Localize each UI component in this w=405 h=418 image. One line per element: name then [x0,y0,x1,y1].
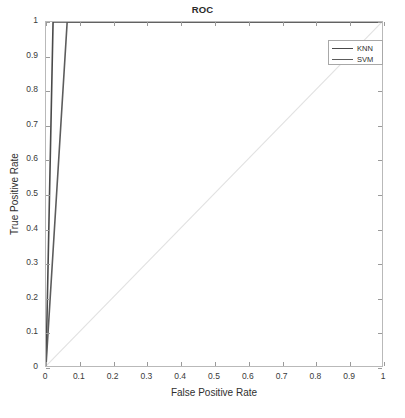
x-tick-mark [215,362,216,366]
x-tick-label: 0.7 [267,371,297,381]
page-title: ROC [0,4,405,15]
legend-label: KNN [357,44,373,53]
y-tick-mark [378,160,382,161]
x-tick-mark [316,362,317,366]
legend: KNNSVM [328,40,383,65]
x-tick-label: 0.6 [233,371,263,381]
y-tick-mark [46,333,50,334]
y-tick-mark [46,160,50,161]
y-tick-mark [378,22,382,23]
x-tick-mark [249,362,250,366]
y-tick-mark [378,264,382,265]
x-tick-mark [80,362,81,366]
plot-canvas [46,22,382,366]
y-tick-mark [46,91,50,92]
y-tick-mark [46,195,50,196]
y-tick-mark [378,126,382,127]
x-tick-mark [181,22,182,26]
x-tick-mark [147,22,148,26]
x-tick-mark [249,22,250,26]
x-tick-mark [181,362,182,366]
y-axis-label: True Positive Rate [8,21,22,367]
y-tick-mark [46,368,50,369]
y-tick-mark [46,299,50,300]
y-tick-mark [378,368,382,369]
x-tick-mark [283,22,284,26]
x-tick-label: 0.8 [300,371,330,381]
roc-chart-figure: ROC 00.10.20.30.40.50.60.70.80.91 00.10.… [0,0,405,418]
y-tick-mark [46,22,50,23]
x-tick-mark [215,22,216,26]
x-tick-label: 0.5 [199,371,229,381]
legend-item: SVM [329,54,382,65]
y-tick-mark [378,91,382,92]
x-tick-mark [350,362,351,366]
y-tick-mark [46,230,50,231]
legend-item: KNN [329,43,382,54]
x-tick-mark [283,362,284,366]
y-tick-mark [46,264,50,265]
x-tick-label: 0.4 [165,371,195,381]
x-tick-mark [114,362,115,366]
x-tick-label: 1 [368,371,398,381]
x-axis-label: False Positive Rate [45,387,383,398]
plot-area [45,21,383,367]
y-tick-mark [378,333,382,334]
x-tick-mark [147,362,148,366]
legend-label: SVM [357,55,373,64]
x-tick-label: 0.2 [98,371,128,381]
x-tick-label: 0.3 [131,371,161,381]
x-tick-mark [350,22,351,26]
x-tick-label: 0.9 [334,371,364,381]
reference-diagonal-line [46,22,382,366]
legend-line-swatch [332,48,353,49]
x-tick-mark [384,22,385,26]
y-tick-mark [46,57,50,58]
x-tick-mark [114,22,115,26]
series-group [46,22,382,366]
y-tick-mark [378,299,382,300]
x-tick-mark [384,362,385,366]
x-tick-mark [46,362,47,366]
x-tick-mark [316,22,317,26]
legend-line-swatch [332,59,353,60]
y-tick-mark [378,195,382,196]
x-tick-label: 0.1 [64,371,94,381]
y-tick-mark [378,230,382,231]
x-tick-label: 0 [30,371,60,381]
y-tick-mark [46,126,50,127]
x-tick-mark [80,22,81,26]
